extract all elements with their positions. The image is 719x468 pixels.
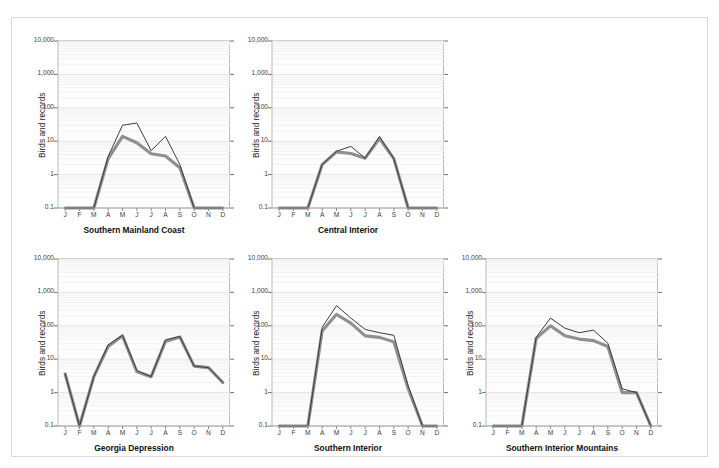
y-tick-label: 0.1 [28, 421, 54, 428]
x-tick-label: F [503, 429, 512, 436]
y-tick-label: 10,000 [28, 36, 54, 43]
x-tick-label: J [560, 429, 569, 436]
panel-title: Central Interior [250, 225, 446, 235]
plot-area [272, 40, 444, 207]
y-tick-label: 1 [242, 170, 268, 177]
x-tick-label: M [332, 429, 341, 436]
y-tick-label: 10 [242, 136, 268, 143]
y-tick-label: 1,000 [28, 69, 54, 76]
y-tick-label: 100 [28, 103, 54, 110]
y-tick-label: 10 [456, 354, 482, 361]
panel-title: Southern Interior Mountains [464, 443, 660, 453]
series-line-birds [65, 136, 223, 208]
y-tick-label: 10 [242, 354, 268, 361]
plot-canvas [272, 259, 444, 426]
x-tick-label: S [175, 429, 184, 436]
y-tick-label: 0.1 [242, 203, 268, 210]
x-tick-label: A [161, 429, 170, 436]
y-tick-label: 10,000 [242, 254, 268, 261]
chart-panel: Birds and records10,0001,0001001010.1JFM… [36, 40, 232, 241]
y-axis-label: Birds and records [252, 92, 261, 158]
x-tick-label: A [589, 429, 598, 436]
x-tick-label: A [318, 211, 327, 218]
x-tick-label: D [432, 429, 441, 436]
y-tick-label: 1,000 [456, 287, 482, 294]
y-tick-label: 100 [242, 103, 268, 110]
y-axis-label: Birds and records [38, 310, 47, 376]
plot-area [272, 258, 444, 425]
plot-canvas [58, 41, 230, 208]
panel-grid: Birds and records10,0001,0001001010.1JFM… [12, 18, 709, 458]
x-tick-label: A [532, 429, 541, 436]
x-tick-label: A [375, 429, 384, 436]
y-tick-label: 10 [28, 354, 54, 361]
y-tick-label: 0.1 [456, 421, 482, 428]
y-tick-label: 1,000 [28, 287, 54, 294]
x-tick-label: J [346, 211, 355, 218]
x-tick-label: N [632, 429, 641, 436]
x-tick-label: M [517, 429, 526, 436]
x-tick-label: J [275, 429, 284, 436]
plot-area [58, 40, 230, 207]
panel-title: Georgia Depression [36, 443, 232, 453]
x-tick-label: S [603, 429, 612, 436]
y-tick-label: 100 [242, 321, 268, 328]
x-tick-label: D [218, 429, 227, 436]
y-axis-label: Birds and records [466, 310, 475, 376]
x-tick-label: D [646, 429, 655, 436]
x-tick-label: N [204, 211, 213, 218]
x-tick-label: J [275, 211, 284, 218]
x-tick-label: J [147, 429, 156, 436]
x-tick-label: M [546, 429, 555, 436]
x-tick-label: J [61, 211, 70, 218]
x-tick-label: S [389, 211, 398, 218]
y-axis-label: Birds and records [252, 310, 261, 376]
series-line-records [279, 136, 437, 208]
chart-panel: Birds and records10,0001,0001001010.1JFM… [36, 258, 232, 459]
x-tick-label: A [375, 211, 384, 218]
x-tick-label: A [318, 429, 327, 436]
x-tick-label: M [118, 211, 127, 218]
x-tick-label: F [289, 429, 298, 436]
x-tick-label: O [404, 429, 413, 436]
x-tick-label: D [432, 211, 441, 218]
y-tick-label: 0.1 [28, 203, 54, 210]
y-tick-label: 1 [28, 388, 54, 395]
plot-area [486, 258, 658, 425]
x-tick-label: A [104, 429, 113, 436]
panel-title: Southern Interior [250, 443, 446, 453]
y-tick-label: 100 [28, 321, 54, 328]
panel-title: Southern Mainland Coast [36, 225, 232, 235]
y-tick-label: 10,000 [28, 254, 54, 261]
y-tick-label: 100 [456, 321, 482, 328]
x-tick-label: O [618, 429, 627, 436]
x-tick-label: J [61, 429, 70, 436]
y-tick-label: 1,000 [242, 69, 268, 76]
chart-panel: Birds and records10,0001,0001001010.1JFM… [464, 258, 660, 459]
chart-panel: Birds and records10,0001,0001001010.1JFM… [250, 258, 446, 459]
x-tick-label: N [418, 211, 427, 218]
x-tick-label: A [161, 211, 170, 218]
x-tick-label: S [389, 429, 398, 436]
x-tick-label: J [346, 429, 355, 436]
series-line-birds [493, 326, 651, 426]
series-line-records [279, 306, 437, 426]
x-tick-label: M [89, 211, 98, 218]
x-tick-label: D [218, 211, 227, 218]
x-tick-label: M [332, 211, 341, 218]
x-tick-label: O [190, 211, 199, 218]
x-tick-label: A [104, 211, 113, 218]
y-tick-label: 1 [28, 170, 54, 177]
x-tick-label: M [89, 429, 98, 436]
plot-canvas [486, 259, 658, 426]
y-tick-label: 1 [456, 388, 482, 395]
x-tick-label: F [75, 429, 84, 436]
y-tick-label: 0.1 [242, 421, 268, 428]
x-tick-label: N [204, 429, 213, 436]
plot-canvas [58, 259, 230, 426]
x-tick-label: O [404, 211, 413, 218]
plot-canvas [272, 41, 444, 208]
series-line-records [65, 123, 223, 208]
y-tick-label: 10,000 [242, 36, 268, 43]
x-tick-label: J [361, 429, 370, 436]
